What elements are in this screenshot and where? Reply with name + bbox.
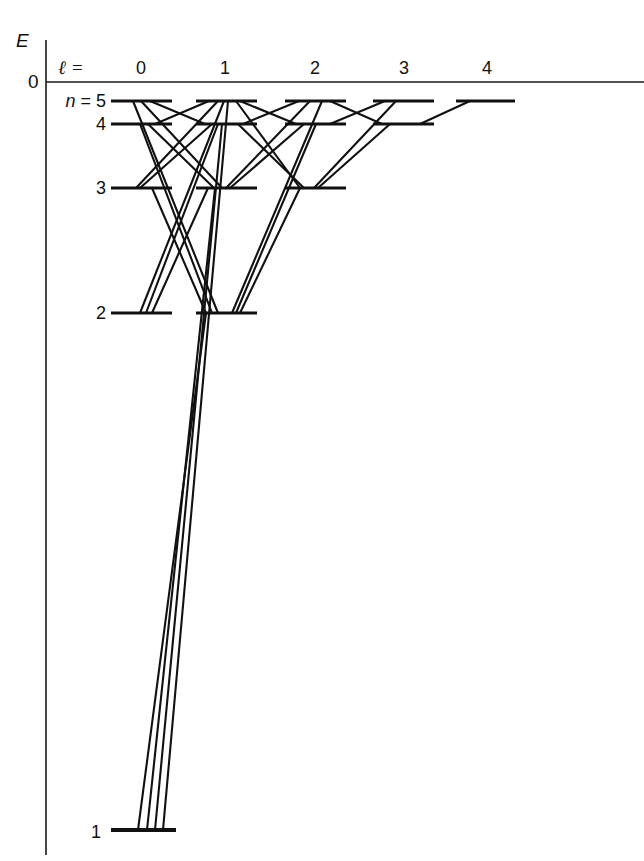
row-label-n-4: 4	[96, 114, 106, 134]
energy-level-diagram-figure: E 0 ℓ = 0 1 2 3 4 n = 5 4 3 2 1	[0, 0, 644, 861]
transitions-layer	[133, 101, 470, 830]
zero-energy-label: 0	[28, 71, 39, 92]
row-label-n-symbol: n	[65, 91, 75, 111]
axes-group	[46, 40, 644, 855]
transition-line	[240, 101, 296, 124]
transition-line	[148, 124, 214, 188]
row-label-n-2: 2	[96, 303, 106, 323]
row-labels-group: n = 5 4 3 2 1	[65, 91, 106, 842]
column-headers-group: 0 1 2 3 4	[136, 58, 492, 78]
column-header-ell-0: 0	[136, 58, 146, 78]
transition-line	[232, 101, 322, 313]
transition-line	[138, 313, 206, 830]
column-header-ell-4: 4	[482, 58, 492, 78]
row-label-n-5: n = 5	[65, 91, 106, 111]
orbital-quantum-number-label: ℓ =	[58, 57, 84, 78]
transition-line	[240, 188, 300, 313]
column-header-ell-3: 3	[399, 58, 409, 78]
energy-axis-label: E	[16, 30, 29, 51]
grotrian-diagram-svg: E 0 ℓ = 0 1 2 3 4 n = 5 4 3 2 1	[0, 0, 644, 861]
transition-line	[420, 101, 470, 124]
row-label-n-3: 3	[96, 178, 106, 198]
energy-levels-layer	[111, 101, 515, 830]
transition-line	[236, 124, 316, 313]
row-label-n-5-value: = 5	[75, 91, 106, 111]
transition-line	[318, 124, 390, 188]
row-label-n-1: 1	[91, 822, 101, 842]
column-header-ell-1: 1	[220, 58, 230, 78]
column-header-ell-2: 2	[310, 58, 320, 78]
